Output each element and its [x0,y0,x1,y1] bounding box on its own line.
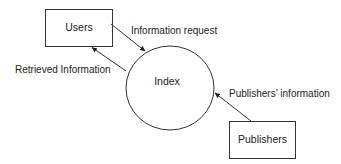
edge-retrieved-information: Retrieved Information [15,48,126,76]
information-request-label: Information request [131,25,217,36]
index-label: Index [154,75,180,87]
publishers-label: Publishers [238,133,287,145]
publishers-information-label: Publishers’ information [229,88,330,99]
diagram-canvas: Users Index Publishers Information reque… [0,0,341,164]
edge-publishers-information: Publishers’ information [215,88,330,121]
retrieved-information-label: Retrieved Information [15,64,111,75]
publishers-node: Publishers [230,122,296,159]
index-node: Index [126,46,214,130]
index-circle [126,46,214,130]
users-label: Users [65,21,92,33]
users-node: Users [46,10,113,47]
